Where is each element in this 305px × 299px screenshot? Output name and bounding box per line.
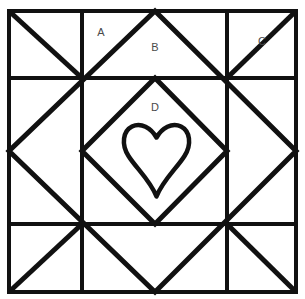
region-label-c: C (258, 35, 266, 47)
quilt-block-figure: A B C D (0, 0, 305, 299)
region-label-b: B (151, 41, 159, 53)
region-label-a: A (97, 26, 105, 38)
quilt-block-canvas: A B C D (0, 0, 305, 299)
region-label-d: D (151, 101, 159, 113)
